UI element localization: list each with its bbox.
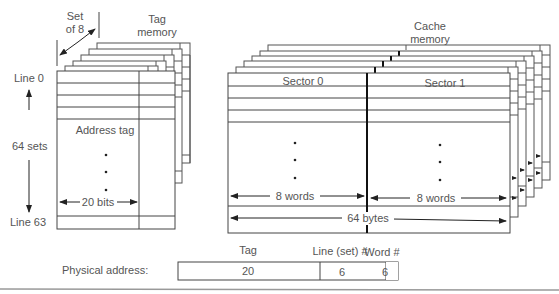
line-0-label: Line 0 — [14, 72, 44, 84]
pa-header-word: Word # — [352, 246, 412, 258]
pa-value-word: 6 — [365, 266, 405, 278]
line-63-label: Line 63 — [10, 216, 46, 228]
set-of-8-label: Set of 8 — [60, 10, 90, 36]
pa-value-line: 6 — [322, 266, 362, 278]
line-width-label: 64 bytes — [342, 212, 394, 224]
cache-memory-front — [228, 73, 510, 233]
physical-address-label: Physical address: — [62, 264, 148, 276]
set-of-8-line1: Set — [60, 10, 90, 23]
bottom-rule — [0, 289, 559, 290]
cache-memory-line2: memory — [400, 33, 460, 46]
set-of-8-arrow-a — [60, 42, 78, 55]
tag-memory-label: Tag memory — [132, 13, 182, 39]
pa-value-tag: 20 — [218, 265, 278, 277]
tag-memory-line2: memory — [132, 26, 182, 39]
cache-memory-label: Cache memory — [400, 20, 460, 46]
address-tag-label: Address tag — [60, 124, 150, 136]
diagram-lines — [0, 0, 559, 294]
sector0-width-label: 8 words — [270, 190, 320, 202]
sector-0-label: Sector 0 — [268, 75, 338, 87]
sets-label: 64 sets — [12, 140, 47, 152]
cache-memory-line1: Cache — [400, 20, 460, 33]
sector1-width-label: 8 words — [410, 192, 462, 204]
20-bits-label: 20 bits — [79, 196, 117, 208]
set-of-8-line2: of 8 — [60, 23, 90, 36]
tag-memory-line1: Tag — [132, 13, 182, 26]
pa-header-tag: Tag — [218, 244, 278, 256]
sector-1-label: Sector 1 — [410, 77, 480, 89]
